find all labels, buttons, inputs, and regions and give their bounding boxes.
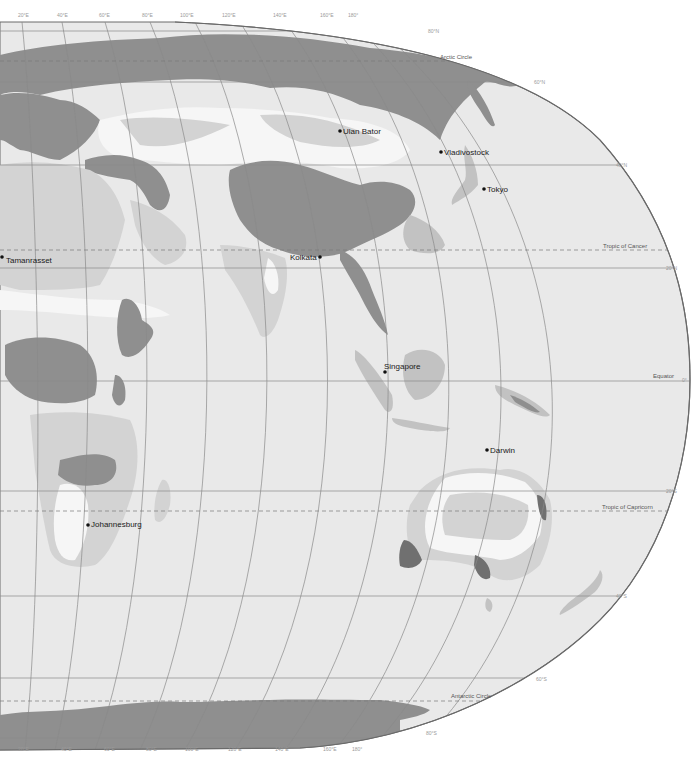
svg-text:20°N: 20°N bbox=[666, 265, 678, 271]
region-australia-interior bbox=[442, 492, 528, 540]
svg-text:80°E: 80°E bbox=[142, 12, 154, 18]
svg-text:Johannesburg: Johannesburg bbox=[91, 520, 142, 529]
svg-text:60°N: 60°N bbox=[534, 79, 546, 85]
city-vladivostock: Vladivostock bbox=[439, 148, 490, 157]
svg-text:120°E: 120°E bbox=[222, 12, 236, 18]
svg-text:Ulan Bator: Ulan Bator bbox=[343, 127, 381, 136]
svg-text:180°: 180° bbox=[348, 12, 358, 18]
svg-text:140°E: 140°E bbox=[275, 746, 289, 752]
city-ulan-bator: Ulan Bator bbox=[338, 127, 381, 136]
svg-text:120°E: 120°E bbox=[228, 746, 242, 752]
svg-text:80°N: 80°N bbox=[428, 28, 440, 34]
city-johannesburg: Johannesburg bbox=[86, 520, 142, 529]
svg-text:20°S: 20°S bbox=[666, 488, 678, 494]
svg-text:Antarctic Circle: Antarctic Circle bbox=[451, 693, 492, 699]
city-tamanrasset: Tamanrasset bbox=[0, 255, 52, 265]
svg-text:160°E: 160°E bbox=[320, 12, 334, 18]
city-tokyo: Tokyo bbox=[482, 185, 508, 194]
svg-text:60°E: 60°E bbox=[99, 12, 111, 18]
city-darwin: Darwin bbox=[485, 446, 515, 455]
svg-text:Kolkata: Kolkata bbox=[290, 253, 317, 262]
svg-text:Vladivostock: Vladivostock bbox=[444, 148, 490, 157]
svg-text:Tamanrasset: Tamanrasset bbox=[6, 256, 53, 265]
svg-text:Singapore: Singapore bbox=[384, 362, 421, 371]
svg-text:80°S: 80°S bbox=[426, 730, 438, 736]
svg-text:140°E: 140°E bbox=[273, 12, 287, 18]
svg-text:20°E: 20°E bbox=[18, 746, 30, 752]
svg-text:0°: 0° bbox=[682, 377, 687, 383]
svg-text:100°E: 100°E bbox=[180, 12, 194, 18]
svg-text:40°E: 40°E bbox=[57, 12, 69, 18]
svg-text:Darwin: Darwin bbox=[490, 446, 515, 455]
svg-text:180°: 180° bbox=[352, 746, 362, 752]
svg-text:Tropic of Capricorn: Tropic of Capricorn bbox=[602, 504, 653, 510]
svg-text:20°E: 20°E bbox=[18, 12, 30, 18]
region-zambezi bbox=[58, 454, 116, 486]
longitude-labels-top: 20°E 40°E 60°E 80°E 100°E 120°E 140°E 16… bbox=[18, 12, 358, 18]
svg-text:60°E: 60°E bbox=[104, 746, 116, 752]
svg-text:40°E: 40°E bbox=[61, 746, 73, 752]
world-map: 20°E 40°E 60°E 80°E 100°E 120°E 140°E 16… bbox=[0, 0, 699, 783]
svg-text:100°E: 100°E bbox=[185, 746, 199, 752]
svg-text:Tropic of Cancer: Tropic of Cancer bbox=[603, 243, 647, 249]
svg-text:160°E: 160°E bbox=[323, 746, 337, 752]
svg-text:40°N: 40°N bbox=[616, 162, 628, 168]
svg-text:Tokyo: Tokyo bbox=[487, 185, 508, 194]
svg-text:Equator: Equator bbox=[653, 373, 674, 379]
svg-text:60°S: 60°S bbox=[536, 676, 548, 682]
svg-text:80°E: 80°E bbox=[146, 746, 158, 752]
svg-text:Arctic Circle: Arctic Circle bbox=[440, 54, 473, 60]
svg-text:40°S: 40°S bbox=[616, 593, 628, 599]
